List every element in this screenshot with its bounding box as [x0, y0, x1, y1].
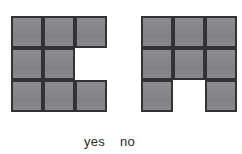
label-no: no	[120, 135, 135, 148]
right-cell-r1c0	[141, 48, 173, 80]
left-cell-r0c0	[11, 16, 43, 48]
label-yes: yes	[84, 135, 105, 148]
left-polyomino-figure	[11, 16, 107, 112]
right-cell-r2c0	[141, 80, 173, 112]
right-cell-r0c2	[205, 16, 237, 48]
left-cell-r2c2	[75, 80, 107, 112]
right-cell-r1c2	[205, 48, 237, 80]
figure-comparison-canvas: yes no	[0, 0, 242, 154]
left-cell-r0c1	[43, 16, 75, 48]
left-cell-r2c0	[11, 80, 43, 112]
left-cell-r0c2	[75, 16, 107, 48]
left-cell-r1c2-empty	[75, 48, 107, 80]
right-cell-r1c1	[173, 48, 205, 80]
right-cell-r0c1	[173, 16, 205, 48]
right-cell-r2c1-empty	[173, 80, 205, 112]
left-cell-r2c1	[43, 80, 75, 112]
right-polyomino-figure	[141, 16, 237, 112]
right-cell-r0c0	[141, 16, 173, 48]
left-cell-r1c1	[43, 48, 75, 80]
left-cell-r1c0	[11, 48, 43, 80]
right-cell-r2c2	[205, 80, 237, 112]
